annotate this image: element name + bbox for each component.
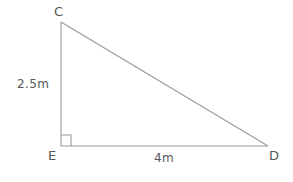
side-length-label-ed: 4m bbox=[154, 152, 174, 165]
geometry-figure: C E D 2.5m 4m bbox=[0, 0, 293, 182]
vertex-label-e: E bbox=[48, 149, 56, 162]
right-angle-marker-icon bbox=[61, 135, 71, 146]
vertex-label-c: C bbox=[54, 5, 63, 18]
side-length-label-ce: 2.5m bbox=[17, 78, 49, 91]
triangle-drawing bbox=[0, 0, 293, 182]
vertex-label-d: D bbox=[269, 149, 279, 162]
side-cd-hypotenuse-line bbox=[61, 22, 268, 146]
